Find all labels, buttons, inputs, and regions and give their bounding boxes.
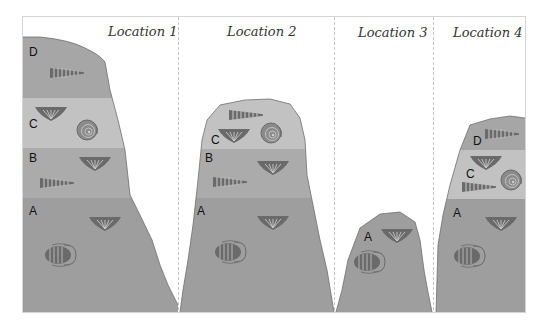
layer-label-D: D bbox=[473, 134, 482, 148]
layer-label-A: A bbox=[29, 204, 37, 218]
layer-label-A: A bbox=[197, 204, 205, 218]
location-1-title: Location 1 bbox=[108, 24, 177, 39]
location-3-title: Location 3 bbox=[358, 25, 427, 40]
ammonite-icon bbox=[261, 123, 282, 143]
layer-label-A: A bbox=[453, 206, 461, 220]
layer-label-B: B bbox=[29, 151, 37, 165]
location-1-column bbox=[23, 30, 183, 313]
ammonite-icon bbox=[77, 120, 98, 140]
layer-label-D: D bbox=[29, 45, 38, 59]
location-3-column bbox=[334, 205, 434, 313]
layer-label-A: A bbox=[364, 230, 372, 244]
location-2-title: Location 2 bbox=[227, 24, 296, 39]
layer-label-C: C bbox=[466, 167, 475, 181]
layer-label-B: B bbox=[205, 151, 213, 165]
ammonite-icon bbox=[501, 170, 522, 190]
layer-label-C: C bbox=[29, 117, 38, 131]
location-4-title: Location 4 bbox=[453, 25, 522, 40]
rock-layers-diagram: Location 1 Location 2 Location 3 Locatio… bbox=[0, 0, 547, 326]
layer-label-C: C bbox=[211, 133, 220, 147]
